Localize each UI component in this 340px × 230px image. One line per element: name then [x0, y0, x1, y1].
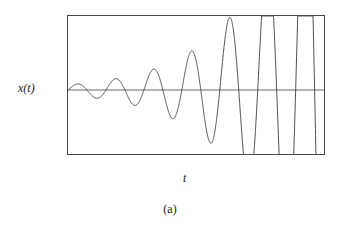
plot-frame	[67, 15, 325, 155]
figure-caption-text: (a)	[163, 203, 176, 215]
waveform-plot	[67, 15, 325, 155]
y-axis-label: x(t)	[18, 82, 35, 94]
figure-container: x(t) t (a)	[0, 0, 340, 230]
x-axis-label: t	[183, 172, 186, 184]
waveform-curve	[68, 16, 325, 155]
figure-caption: (a)	[0, 203, 340, 215]
